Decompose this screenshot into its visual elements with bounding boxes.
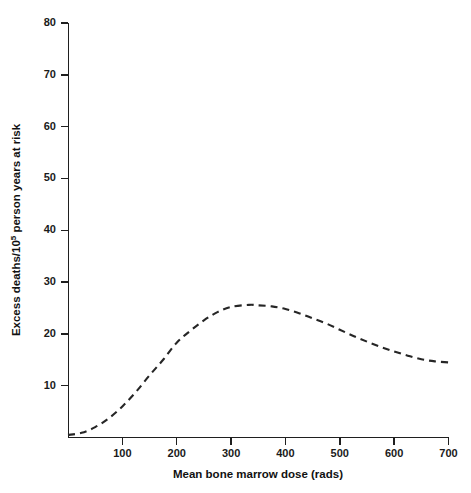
y-tick-label-80: 80 xyxy=(44,16,56,28)
y-axis-title: Excess deaths/105 person years at risk xyxy=(9,123,23,336)
x-tick-label-200: 200 xyxy=(168,447,186,459)
x-tick-label-600: 600 xyxy=(385,447,403,459)
x-tick-label-300: 300 xyxy=(222,447,240,459)
x-axis-title: Mean bone marrow dose (rads) xyxy=(173,468,343,480)
x-tick-label-400: 400 xyxy=(276,447,294,459)
excess-deaths-dose-chart: 10 20 30 40 50 60 70 80 100 200 300 xyxy=(0,0,471,493)
y-axis-title-prefix: Excess deaths/10 xyxy=(10,240,22,336)
y-tick-label-40: 40 xyxy=(44,223,56,235)
chart-figure: 10 20 30 40 50 60 70 80 100 200 300 xyxy=(0,0,471,493)
y-tick-label-50: 50 xyxy=(44,171,56,183)
y-tick-label-10: 10 xyxy=(44,379,56,391)
x-tick-label-100: 100 xyxy=(113,447,131,459)
y-tick-label-60: 60 xyxy=(44,120,56,132)
y-tick-label-30: 30 xyxy=(44,275,56,287)
chart-background xyxy=(0,0,471,493)
y-axis-title-suffix: person years at risk xyxy=(10,123,22,235)
x-tick-label-700: 700 xyxy=(439,447,457,459)
y-tick-label-70: 70 xyxy=(44,68,56,80)
x-tick-label-500: 500 xyxy=(331,447,349,459)
y-tick-label-20: 20 xyxy=(44,327,56,339)
